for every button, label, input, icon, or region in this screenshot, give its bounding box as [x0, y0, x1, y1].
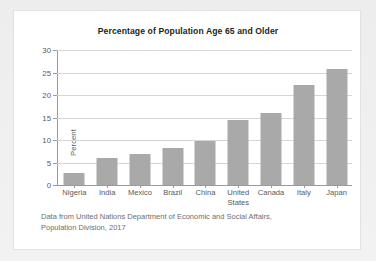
bar	[293, 85, 314, 185]
bar-group: United States	[222, 50, 255, 185]
y-tick-0	[53, 185, 57, 186]
figure-caption: Data from United Nations Department of E…	[41, 212, 341, 233]
bar-group: Canada	[255, 50, 288, 185]
bar-group: Japan	[320, 50, 353, 185]
y-tick-5	[53, 163, 57, 164]
y-tick-10	[53, 140, 57, 141]
figure-card: Percentage of Population Age 65 and Olde…	[13, 10, 361, 250]
bar	[261, 113, 282, 185]
bar	[97, 158, 118, 185]
chart-title: Percentage of Population Age 65 and Olde…	[14, 26, 362, 36]
bar-group: Italy	[287, 50, 320, 185]
bar-group: India	[91, 50, 124, 185]
plot-area: Percent 051015202530 NigeriaIndiaMexicoB…	[57, 50, 352, 185]
y-tick-20	[53, 95, 57, 96]
y-axis-tick-label: 0	[47, 181, 51, 190]
x-axis-tick-label: Japan	[315, 188, 359, 198]
y-axis-tick-label: 30	[42, 46, 51, 55]
bars-group: NigeriaIndiaMexicoBrazilChinaUnited Stat…	[58, 50, 352, 185]
y-tick-25	[53, 73, 57, 74]
bar	[228, 120, 249, 185]
bar	[129, 154, 150, 186]
bar	[195, 141, 216, 185]
bar	[64, 173, 85, 185]
y-axis-tick-label: 20	[42, 91, 51, 100]
y-axis-tick-label: 10	[42, 136, 51, 145]
bar-group: Mexico	[124, 50, 157, 185]
bar-group: Nigeria	[58, 50, 91, 185]
y-axis-tick-label: 5	[47, 158, 51, 167]
y-axis-tick-label: 15	[42, 113, 51, 122]
caption-line-1: Data from United Nations Department of E…	[41, 212, 272, 221]
bar	[326, 69, 347, 185]
y-tick-15	[53, 118, 57, 119]
caption-line-2: Population Division, 2017	[41, 223, 126, 232]
y-axis-tick-label: 25	[42, 68, 51, 77]
bar-group: Brazil	[156, 50, 189, 185]
bar-group: China	[189, 50, 222, 185]
bar	[162, 148, 183, 185]
y-tick-30	[53, 50, 57, 51]
